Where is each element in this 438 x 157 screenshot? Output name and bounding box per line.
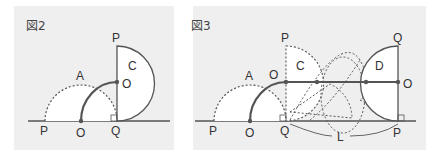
label-P-base: P xyxy=(40,124,48,138)
figure-2: 図2 P C O A P O Q xyxy=(26,19,170,140)
label-A: A xyxy=(76,69,84,83)
figure-container: 図2 P C O A P O Q 図3 xyxy=(0,0,438,157)
label-C-3: C xyxy=(296,59,305,73)
label-O-mid: O xyxy=(122,77,131,91)
geometry-diagram: 図2 P C O A P O Q 図3 xyxy=(0,0,438,157)
label-A-3: A xyxy=(245,69,253,83)
label-Q-base-3: Q xyxy=(280,124,289,138)
label-C: C xyxy=(128,59,137,73)
figure-2-title: 図2 xyxy=(26,19,46,33)
label-O-base-3: O xyxy=(245,126,254,140)
figure-3: 図3 P C xyxy=(191,19,416,144)
label-D: D xyxy=(375,59,384,73)
label-L: L xyxy=(337,130,344,144)
label-P-top-3: P xyxy=(281,31,289,45)
label-Q-base: Q xyxy=(111,124,120,138)
label-P-right: P xyxy=(393,126,401,140)
label-O-mid-3: O xyxy=(269,68,278,82)
label-O-right: O xyxy=(403,77,412,91)
label-O-base: O xyxy=(76,126,85,140)
label-P-base-3: P xyxy=(209,124,217,138)
label-Q-top: Q xyxy=(393,31,402,45)
figure-3-title: 図3 xyxy=(191,19,211,33)
label-P-top: P xyxy=(112,31,120,45)
